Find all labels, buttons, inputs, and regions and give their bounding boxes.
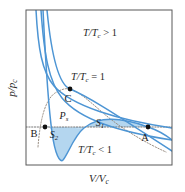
saturation-pressure-sub: s [66,115,69,122]
point-a-marker [146,125,151,130]
vdw-isotherm-figure: A B C T/Tc> 1 T/Tc= 1 T/Tc< 1 Ps S1 S2 p… [0,0,185,192]
label-subcritical-prefix: T/T [78,144,94,155]
point-c-marker [68,87,73,92]
saturation-pressure-main: P [59,110,66,121]
point-b-label: B [30,128,37,139]
label-supercritical-prefix: T/T [83,27,99,38]
y-axis-label-sub: c [10,79,19,83]
label-critical-prefix: T/T [71,71,87,82]
point-a-label: A [141,132,149,143]
y-axis-label-main: p/p [5,82,17,98]
label-critical-suffix: = 1 [91,71,105,82]
x-axis-label-sub: c [106,177,110,186]
point-b-marker [43,125,48,130]
area-s1-sub: 1 [101,122,104,129]
label-subcritical-suffix: < 1 [98,144,112,155]
point-c-label: C [64,93,71,104]
area-s2-sub: 2 [55,134,59,141]
x-axis-label-main: V/V [89,172,107,184]
label-supercritical-suffix: > 1 [103,27,117,38]
y-axis-label: p/pc [5,79,19,98]
chart-svg: A B C T/Tc> 1 T/Tc= 1 T/Tc< 1 Ps S1 S2 p… [0,0,185,192]
x-axis-label: V/Vc [89,172,110,186]
